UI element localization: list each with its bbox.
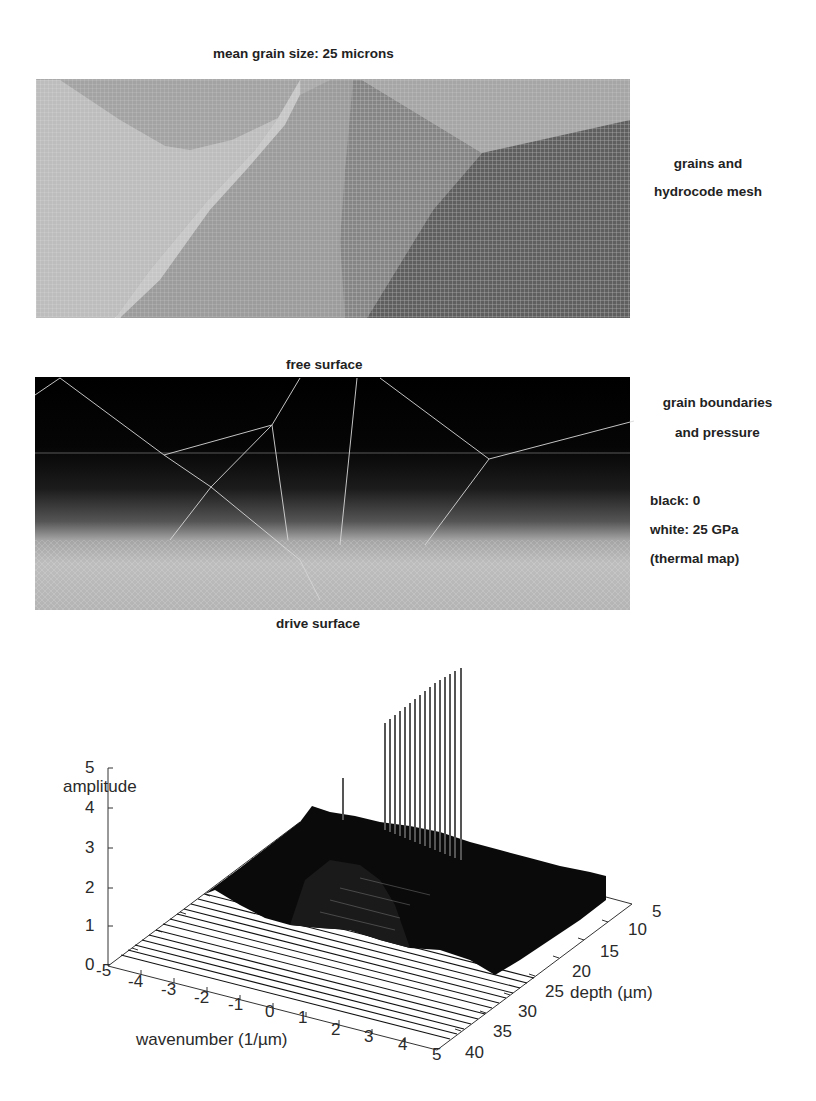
z-tick-2: 2 xyxy=(85,878,94,898)
x-tick-1: 1 xyxy=(298,1008,307,1028)
z-tick-3: 3 xyxy=(85,838,94,858)
z-tick-0: 0 xyxy=(85,955,94,975)
x-tick-3: 3 xyxy=(364,1027,373,1047)
x-tick--4: -4 xyxy=(128,972,143,992)
z-tick-1: 1 xyxy=(85,916,94,936)
x-tick-5: 5 xyxy=(432,1045,441,1065)
x-tick-2: 2 xyxy=(331,1020,340,1040)
x-tick-0: 0 xyxy=(265,1002,274,1022)
y-tick-30: 30 xyxy=(518,1002,537,1022)
z-tick-4: 4 xyxy=(85,798,94,818)
y-tick-20: 20 xyxy=(572,962,591,982)
y-tick-40: 40 xyxy=(465,1043,484,1063)
x-axis-label: wavenumber (1/µm) xyxy=(136,1030,288,1050)
y-tick-35: 35 xyxy=(493,1022,512,1042)
x-tick--1: -1 xyxy=(228,995,243,1015)
x-tick--5: -5 xyxy=(96,961,111,981)
amplitude-surface-plot xyxy=(0,0,816,1101)
y-tick-10: 10 xyxy=(628,920,647,940)
x-tick--2: -2 xyxy=(194,988,209,1008)
y-axis-label: depth (µm) xyxy=(570,983,653,1003)
z-tick-5: 5 xyxy=(85,758,94,778)
x-tick--3: -3 xyxy=(161,980,176,1000)
y-tick-15: 15 xyxy=(600,942,619,962)
x-tick-4: 4 xyxy=(398,1035,407,1055)
y-tick-25: 25 xyxy=(545,982,564,1002)
y-tick-5: 5 xyxy=(652,902,661,922)
